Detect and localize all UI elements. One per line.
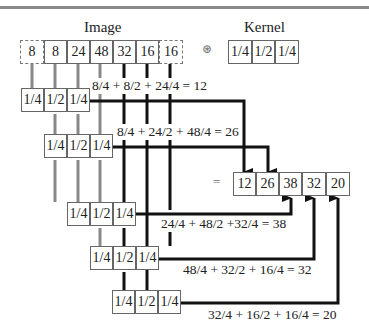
- result-cell: 38: [279, 172, 302, 196]
- image-cell: 8: [44, 40, 67, 64]
- kernel-cell: 1/4: [228, 40, 252, 64]
- image-cell: 48: [90, 40, 113, 64]
- image-cell-padded: 16: [159, 40, 183, 64]
- kernel-cell: 1/4: [112, 290, 135, 314]
- kernel-cell: 1/2: [135, 290, 158, 314]
- kernel-cell: 1/2: [90, 202, 113, 226]
- image-cell: 24: [67, 40, 90, 64]
- equals-sign: =: [213, 174, 220, 190]
- kernel-cell: 1/4: [67, 88, 90, 112]
- result-cell: 32: [302, 172, 326, 196]
- kernel-cell: 1/4: [136, 246, 159, 270]
- kernel-cell: 1/4: [113, 202, 136, 226]
- step-equation-1: 8/4 + 8/2 + 24/4 = 12: [91, 78, 208, 94]
- kernel-cell: 1/4: [21, 88, 44, 112]
- kernel-cell: 1/2: [67, 134, 90, 158]
- kernel-cell: 1/4: [90, 134, 113, 158]
- step-equation-2: 8/4 + 24/2 + 48/4 = 26: [116, 124, 240, 140]
- image-label: Image: [84, 19, 121, 36]
- kernel-cell: 1/4: [158, 290, 181, 314]
- result-cell: 26: [256, 172, 279, 196]
- kernel-cell: 1/2: [44, 88, 67, 112]
- kernel-label: Kernel: [244, 19, 285, 36]
- step-equation-5: 32/4 + 16/2 + 16/4 = 20: [207, 307, 338, 323]
- kernel-cell: 1/2: [113, 246, 136, 270]
- image-cell: 32: [113, 40, 136, 64]
- step-equation-3: 24/4 + 48/2 +32/4 = 38: [160, 216, 287, 232]
- image-cell-padded: 8: [20, 40, 44, 64]
- image-cell: 16: [136, 40, 159, 64]
- kernel-cell: 1/4: [44, 134, 67, 158]
- kernel-cell: 1/4: [67, 202, 90, 226]
- convolution-operator-icon: ⊛: [202, 42, 212, 57]
- step-equation-4: 48/4 + 32/2 + 16/4 = 32: [182, 262, 313, 278]
- kernel-cell: 1/4: [275, 40, 299, 64]
- kernel-cell: 1/4: [90, 246, 113, 270]
- kernel-cell: 1/2: [252, 40, 275, 64]
- result-cell: 20: [326, 172, 350, 196]
- result-cell: 12: [233, 172, 256, 196]
